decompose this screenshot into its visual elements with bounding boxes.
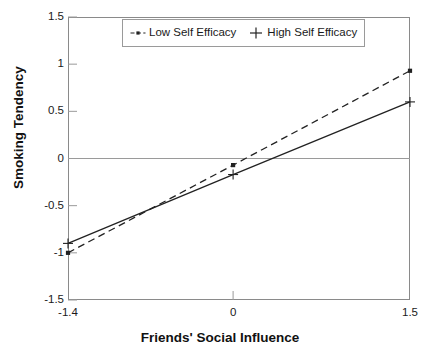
legend-entry-high-self-efficacy: High Self Efficacy <box>248 27 357 39</box>
legend-label: High Self Efficacy <box>267 27 357 39</box>
chart-figure: 1.510.50-0.5-1-1.5 -1.401.5 Smoking Tend… <box>0 0 440 357</box>
x-tick-label: 0 <box>203 307 263 319</box>
legend-entry-low-self-efficacy: Low Self Efficacy <box>130 27 236 39</box>
square-dot-dashed-icon <box>130 27 146 39</box>
x-tick-label: 1.5 <box>380 307 440 319</box>
plus-icon <box>248 27 264 39</box>
chart-legend: Low Self Efficacy High Self Efficacy <box>122 19 365 47</box>
x-tick-label: -1.4 <box>38 307 98 319</box>
x-axis-title: Friends' Social Influence <box>0 330 440 345</box>
x-axis-tick-labels: -1.401.5 <box>0 0 440 357</box>
y-axis-title: Smoking Tendency <box>11 48 26 208</box>
legend-label: Low Self Efficacy <box>149 27 236 39</box>
